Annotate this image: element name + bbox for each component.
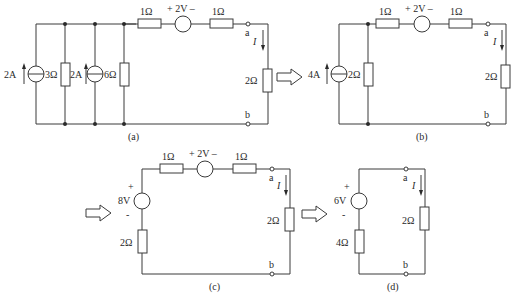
junction-dot	[93, 122, 97, 126]
transform-arrow-icon	[86, 205, 111, 221]
resistor-4ohm	[355, 230, 364, 253]
vsrc2-label: + 2V –	[189, 148, 218, 159]
voltage-source-2v	[197, 161, 213, 177]
vsrc-plus-label: +	[128, 181, 134, 192]
terminal-b	[246, 122, 250, 126]
node-b-label: b	[484, 109, 489, 120]
series-r1-label: 1Ω	[379, 6, 391, 17]
arrow-head-icon	[261, 45, 265, 51]
terminal-a	[486, 22, 490, 26]
resistor-2ohm-parallel	[364, 63, 373, 86]
current-label: I	[276, 180, 281, 191]
series-resistor-1	[160, 164, 183, 173]
r2-label: 6Ω	[104, 69, 116, 80]
vsrc-minus-label: -	[126, 209, 129, 220]
node-a-label: a	[269, 172, 274, 183]
node-a-label: a	[403, 172, 408, 183]
voltage-source-6v	[351, 193, 367, 209]
series-r1-label: 1Ω	[140, 6, 152, 17]
vsrc-label: + 2V –	[405, 3, 434, 14]
load-resistor	[501, 65, 510, 88]
arrow-head-icon	[325, 63, 329, 69]
series-resistor-2	[233, 164, 256, 173]
series-r1-label: 1Ω	[162, 151, 174, 162]
vsrc-label: + 2V –	[167, 3, 196, 14]
load-resistor	[263, 69, 272, 92]
current-label: I	[252, 36, 257, 47]
current-label: I	[492, 36, 497, 47]
junction-dot	[63, 122, 67, 126]
vsrc-plus-label: +	[344, 181, 350, 192]
terminal-a	[404, 167, 408, 171]
circuit-b: 4A 2Ω 1Ω + 2V – 1Ω a b I 2Ω (b)	[308, 3, 510, 143]
terminal-b	[270, 272, 274, 276]
source2-label: 2A	[70, 69, 83, 80]
r-parallel-label: 2Ω	[348, 69, 360, 80]
series-resistor-2	[210, 19, 233, 28]
vsrc-minus-label: -	[342, 209, 345, 220]
source1-label: 2A	[4, 69, 17, 80]
transform-arrow-icon	[302, 206, 327, 222]
figure-label-a: (a)	[128, 131, 139, 143]
load-label: 2Ω	[402, 215, 414, 226]
node-b-label: b	[403, 259, 408, 270]
node-b-label: b	[245, 109, 250, 120]
series-resistor-2	[449, 19, 472, 28]
circuit-c: + 8V - 2Ω 1Ω + 2V – 1Ω a b I 2Ω (c)	[118, 148, 294, 293]
load-resistor	[420, 207, 429, 230]
load-label: 2Ω	[485, 71, 497, 82]
voltage-source-2v	[414, 16, 430, 32]
r-series-label: 4Ω	[336, 237, 348, 248]
r-series-left-label: 2Ω	[120, 237, 132, 248]
arrow-head-icon	[84, 63, 88, 69]
figure-label-b: (b)	[416, 131, 428, 143]
current-label: I	[411, 180, 416, 191]
transform-arrow-icon	[277, 69, 302, 85]
series-r2-label: 1Ω	[235, 151, 247, 162]
source-label: 4A	[308, 69, 321, 80]
terminal-a	[246, 22, 250, 26]
circuit-figure: 2A 3Ω 2A 6Ω 1Ω + 2V – 1Ω a b I 2Ω (a)	[0, 0, 514, 303]
junction-dot	[122, 122, 126, 126]
figure-label-c: (c)	[209, 281, 220, 293]
node-b-label: b	[269, 259, 274, 270]
r1-label: 3Ω	[45, 69, 57, 80]
series-r2-label: 1Ω	[212, 6, 224, 17]
circuit-a: 2A 3Ω 2A 6Ω 1Ω + 2V – 1Ω a b I 2Ω (a)	[4, 3, 272, 143]
vsrc-value-label: 8V	[118, 195, 131, 206]
resistor-6ohm	[120, 63, 129, 86]
terminal-b	[404, 272, 408, 276]
load-resistor	[285, 208, 294, 231]
junction-dot	[366, 22, 370, 26]
junction-dot	[122, 22, 126, 26]
load-label: 2Ω	[267, 215, 279, 226]
series-resistor-1	[138, 19, 161, 28]
arrow-head-icon	[22, 63, 26, 69]
terminal-b	[486, 122, 490, 126]
node-a-label: a	[245, 27, 250, 38]
voltage-source-2v	[175, 16, 191, 32]
circuit-d: + 6V - 4Ω a b I 2Ω (d)	[334, 167, 429, 293]
resistor-2ohm-left	[138, 230, 147, 253]
voltage-source-8v	[134, 193, 150, 209]
arrow-head-icon	[419, 190, 423, 196]
load-label: 2Ω	[245, 75, 257, 86]
series-resistor-1	[376, 19, 399, 28]
arrow-head-icon	[500, 45, 504, 51]
arrow-head-icon	[284, 190, 288, 196]
terminal-a	[270, 167, 274, 171]
junction-dot	[63, 22, 67, 26]
node-a-label: a	[484, 27, 489, 38]
vsrc-value-label: 6V	[334, 195, 347, 206]
junction-dot	[366, 122, 370, 126]
junction-dot	[93, 22, 97, 26]
series-r2-label: 1Ω	[450, 6, 462, 17]
figure-label-d: (d)	[387, 281, 399, 293]
resistor-3ohm	[61, 63, 70, 86]
